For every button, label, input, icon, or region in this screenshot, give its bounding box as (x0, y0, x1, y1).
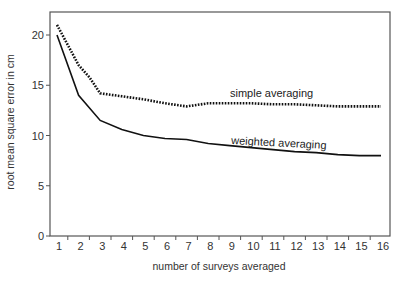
x-axis-ticks: 12345678910111213141516 (56, 236, 389, 252)
simple-averaging-label: simple averaging (230, 87, 313, 99)
y-tick-label: 15 (32, 79, 44, 91)
line-chart: 05101520 12345678910111213141516 simple … (0, 0, 405, 283)
y-tick-label: 0 (38, 230, 44, 242)
weighted-averaging-label: weighted averaging (230, 134, 327, 151)
x-axis-label: number of surveys averaged (152, 260, 285, 272)
plot-frame (50, 12, 390, 236)
y-tick-label: 5 (38, 180, 44, 192)
x-tick-label: 14 (334, 240, 346, 252)
x-tick-label: 4 (121, 240, 127, 252)
x-tick-label: 1 (56, 240, 62, 252)
y-axis-label: root mean square error in cm (4, 54, 16, 190)
weighted-averaging-line (57, 35, 381, 156)
x-tick-label: 2 (78, 240, 84, 252)
x-tick-label: 10 (247, 240, 259, 252)
x-tick-label: 6 (164, 240, 170, 252)
x-tick-label: 3 (99, 240, 105, 252)
x-tick-label: 15 (355, 240, 367, 252)
x-tick-label: 5 (142, 240, 148, 252)
x-tick-label: 11 (269, 240, 280, 252)
x-tick-label: 7 (186, 240, 192, 252)
y-tick-label: 20 (32, 29, 44, 41)
x-tick-label: 13 (312, 240, 324, 252)
x-tick-label: 8 (207, 240, 213, 252)
y-axis-ticks: 05101520 (32, 29, 50, 242)
y-tick-label: 10 (32, 130, 44, 142)
x-tick-label: 16 (377, 240, 389, 252)
simple-averaging-line (57, 25, 381, 107)
x-tick-label: 12 (290, 240, 302, 252)
x-tick-label: 9 (229, 240, 235, 252)
